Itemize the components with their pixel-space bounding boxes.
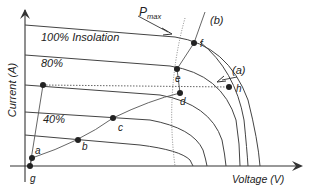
curve-label-40: 40% xyxy=(43,113,65,125)
iv-curves xyxy=(25,25,260,166)
pmax-subscript: max xyxy=(147,12,161,21)
point-e xyxy=(174,66,180,72)
point-label-d: d xyxy=(180,96,186,107)
curve-20 xyxy=(25,135,193,166)
constant-current-dotted-line xyxy=(43,85,229,87)
point-f xyxy=(191,40,197,46)
point-start xyxy=(40,82,46,88)
point-label-b: b xyxy=(82,141,88,152)
x-axis-label: Voltage (V) xyxy=(232,173,284,185)
point-label-a: a xyxy=(35,145,41,156)
line-label-a: (a) xyxy=(232,64,246,76)
pmax-label: P xyxy=(139,5,147,19)
point-label-e: e xyxy=(175,73,181,84)
curve-label-80: 80% xyxy=(41,57,63,69)
a-arrow-icon xyxy=(217,76,226,82)
line-label-b: (b) xyxy=(210,14,224,26)
point-h xyxy=(226,84,232,90)
point-label-h: h xyxy=(236,83,242,94)
point-g xyxy=(27,163,33,169)
pmax-arrow-icon xyxy=(162,28,172,35)
y-axis-label: Current (A) xyxy=(6,62,18,117)
point-label-c: c xyxy=(118,122,123,133)
point-label-g: g xyxy=(30,173,36,184)
point-label-f: f xyxy=(200,38,204,49)
curve-label-100: 100% Insolation xyxy=(41,31,119,43)
iv-curve-diagram: Current (A) Voltage (V) 100% Insolation … xyxy=(0,0,312,189)
curve-60 xyxy=(25,85,226,166)
point-c xyxy=(110,115,116,121)
point-b xyxy=(75,137,81,143)
curve-80 xyxy=(25,55,240,166)
